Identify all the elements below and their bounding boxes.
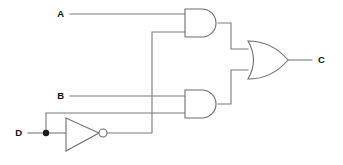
wire-and-bottom-to-or	[218, 70, 248, 104]
junction-dot-d	[43, 130, 49, 136]
logic-circuit-diagram: A B D C	[0, 0, 343, 165]
or-gate	[248, 41, 288, 79]
and-gate-top	[185, 9, 216, 37]
label-input-d: D	[15, 127, 22, 138]
label-input-b: B	[57, 90, 64, 101]
and-gate-bottom	[185, 90, 216, 118]
circuit-canvas: A B D C	[0, 0, 343, 165]
label-input-a: A	[57, 8, 64, 19]
wire-and-top-to-or	[218, 23, 248, 49]
wire-not-output-to-and-top	[107, 32, 185, 133]
not-gate-bubble-icon	[99, 129, 107, 137]
not-gate-triangle	[66, 118, 99, 151]
label-output-c: C	[318, 54, 325, 65]
